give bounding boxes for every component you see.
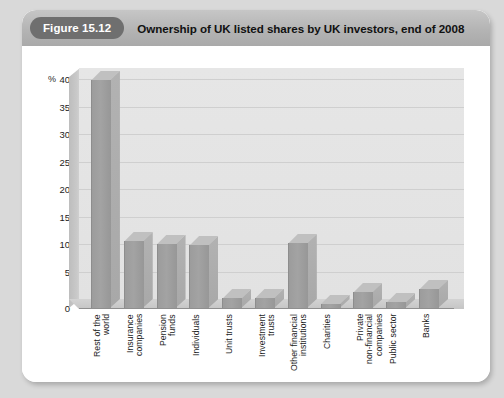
- x-axis-tick-label: Other financial institutions: [290, 314, 309, 380]
- figure-card: Figure 15.12 Ownership of UK listed shar…: [22, 10, 490, 382]
- x-axis-tick-label: Charities: [323, 314, 332, 380]
- x-axis-tick-label: Individuals: [192, 314, 201, 380]
- figure-header: Figure 15.12 Ownership of UK listed shar…: [22, 10, 490, 46]
- x-axis-tick-label: Insurance companies: [126, 314, 145, 380]
- chart-area: % 0510152025303540 Rest of the worldInsu…: [22, 46, 490, 382]
- x-axis-tick-label: Banks: [422, 314, 431, 380]
- x-axis-tick-label: Rest of the world: [93, 314, 112, 380]
- screenshot-root: Figure 15.12 Ownership of UK listed shar…: [0, 0, 504, 398]
- x-axis-tick-label: Private non-financial companies: [356, 314, 384, 380]
- figure-title: Ownership of UK listed shares by UK inve…: [137, 22, 464, 35]
- x-axis-tick-label: Pension funds: [159, 314, 178, 380]
- x-axis-tick-label: Investment trusts: [258, 314, 277, 380]
- figure-number-badge: Figure 15.12: [30, 17, 124, 39]
- x-axis-tick-label: Public sector: [389, 314, 398, 380]
- x-axis-labels: Rest of the worldInsurance companiesPens…: [22, 46, 490, 382]
- x-axis-tick-label: Unit trusts: [225, 314, 234, 380]
